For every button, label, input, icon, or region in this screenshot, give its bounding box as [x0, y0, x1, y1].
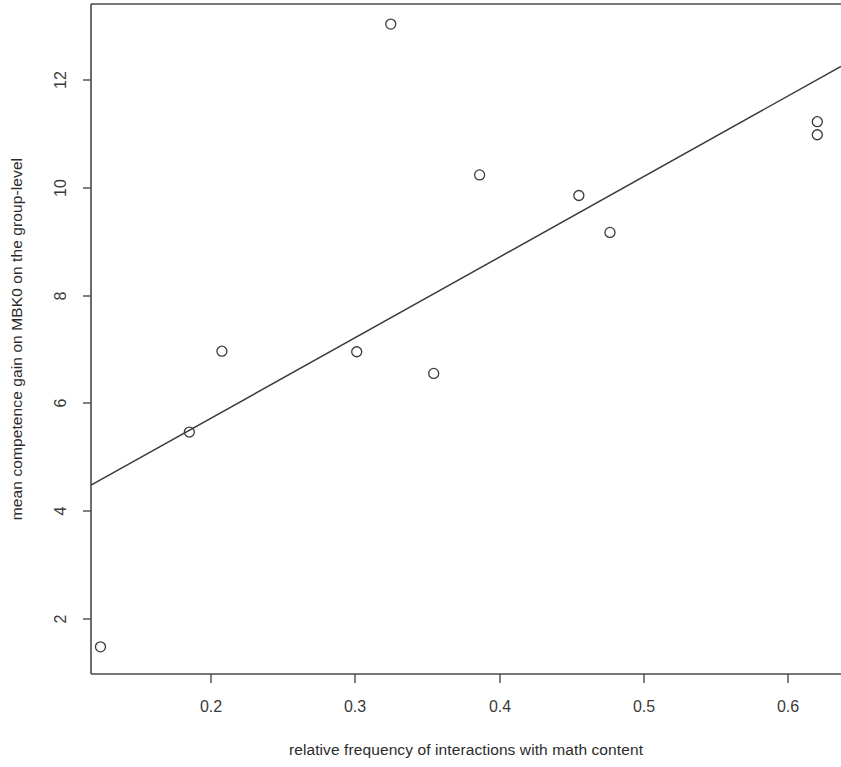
y-tick-label: 10	[52, 179, 69, 197]
regression-line	[91, 66, 841, 485]
data-points	[95, 19, 822, 652]
x-tick-label: 0.4	[489, 698, 511, 715]
data-point	[475, 170, 485, 180]
x-tick-label: 0.2	[200, 698, 222, 715]
data-point	[429, 368, 439, 378]
y-tick-label: 12	[52, 71, 69, 89]
data-point	[217, 346, 227, 356]
data-point	[605, 227, 615, 237]
y-tick-label: 2	[52, 614, 69, 623]
y-tick-label: 8	[52, 291, 69, 300]
data-point	[95, 642, 105, 652]
y-tick-label: 4	[52, 506, 69, 515]
data-point	[386, 19, 396, 29]
plot-canvas: 12 10 8 6 4 2 0.2 0.3 0.4 0.5 0.6 mean c…	[0, 0, 841, 767]
scatter-plot-figure: 12 10 8 6 4 2 0.2 0.3 0.4 0.5 0.6 mean c…	[0, 0, 841, 767]
y-axis-tick-labels: 12 10 8 6 4 2	[52, 71, 69, 623]
data-point	[352, 347, 362, 357]
x-tick-label: 0.6	[777, 698, 799, 715]
data-point	[812, 130, 822, 140]
x-axis-tick-labels: 0.2 0.3 0.4 0.5 0.6	[200, 698, 799, 715]
data-point	[574, 191, 584, 201]
x-tick-label: 0.5	[633, 698, 655, 715]
plot-frame	[91, 4, 841, 674]
x-axis-ticks	[211, 674, 788, 683]
trendline-path	[91, 66, 841, 485]
y-axis-title: mean competence gain on MBK0 on the grou…	[8, 158, 25, 520]
x-axis-title: relative frequency of interactions with …	[289, 741, 644, 758]
data-point	[812, 117, 822, 127]
x-tick-label: 0.3	[344, 698, 366, 715]
y-tick-label: 6	[52, 398, 69, 407]
y-axis-ticks	[83, 80, 91, 619]
